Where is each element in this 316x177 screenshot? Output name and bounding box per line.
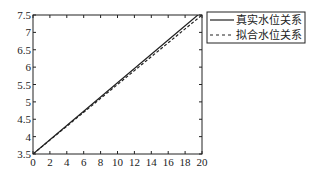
y-tick-label: 3.5 — [17, 148, 31, 160]
y-tick-label: 7.5 — [17, 9, 31, 21]
line-chart: 024681012141618203.544.555.566.577.5 真实水… — [0, 0, 316, 177]
fit-series-line — [33, 15, 202, 154]
true-series-line — [33, 12, 202, 154]
plot-lines — [33, 12, 202, 154]
y-tick-label: 4 — [26, 131, 32, 143]
legend: 真实水位关系 拟合水位关系 — [207, 12, 305, 43]
x-tick-label: 0 — [30, 156, 36, 168]
y-tick-label: 6 — [26, 61, 32, 73]
y-tick-label: 5 — [26, 96, 32, 108]
x-tick-label: 18 — [180, 156, 192, 168]
y-tick-label: 7 — [26, 26, 32, 38]
x-tick-label: 14 — [146, 156, 158, 168]
x-tick-label: 2 — [47, 156, 53, 168]
x-tick-label: 12 — [129, 156, 140, 168]
x-tick-label: 16 — [163, 156, 175, 168]
x-tick-label: 10 — [112, 156, 124, 168]
y-tick-label: 5.5 — [17, 79, 31, 91]
y-tick-label: 4.5 — [17, 113, 31, 125]
legend-label-fit: 拟合水位关系 — [236, 28, 302, 42]
x-tick-label: 4 — [64, 156, 70, 168]
legend-label-true: 真实水位关系 — [236, 13, 302, 27]
x-tick-label: 20 — [197, 156, 209, 168]
x-tick-label: 8 — [98, 156, 104, 168]
x-tick-label: 6 — [81, 156, 87, 168]
y-tick-label: 6.5 — [17, 44, 31, 56]
